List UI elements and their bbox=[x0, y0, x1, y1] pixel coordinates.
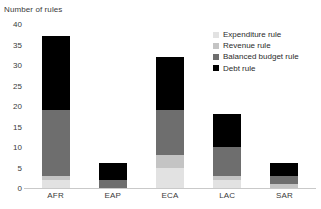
bar-segment[interactable] bbox=[213, 114, 241, 147]
y-axis-tick-label: 10 bbox=[0, 143, 22, 152]
stacked-bar[interactable] bbox=[99, 163, 127, 188]
y-axis-tick-label: 40 bbox=[0, 20, 22, 29]
bar-slot bbox=[84, 24, 141, 188]
bar-slot bbox=[27, 24, 84, 188]
y-axis-tick-label: 35 bbox=[0, 40, 22, 49]
legend-item-label: Revenue rule bbox=[223, 41, 271, 50]
bar-segment[interactable] bbox=[270, 163, 298, 175]
legend-item-label: Balanced budget rule bbox=[223, 52, 299, 61]
y-axis-tick-label: 25 bbox=[0, 81, 22, 90]
y-axis-tick-label: 0 bbox=[0, 184, 22, 193]
y-axis-tick-label: 20 bbox=[0, 102, 22, 111]
bar-segment[interactable] bbox=[99, 163, 127, 179]
bar-segment[interactable] bbox=[156, 110, 184, 155]
legend-item[interactable]: Balanced budget rule bbox=[213, 52, 299, 61]
x-axis-tick-label: EAP bbox=[84, 191, 141, 200]
bar-segment[interactable] bbox=[42, 180, 70, 188]
y-axis-tick-label: 15 bbox=[0, 122, 22, 131]
stacked-bar[interactable] bbox=[156, 57, 184, 188]
stacked-bar[interactable] bbox=[213, 114, 241, 188]
y-axis-title: Number of rules bbox=[4, 5, 62, 14]
x-axis-tick-label: ECA bbox=[141, 191, 198, 200]
bar-segment[interactable] bbox=[270, 176, 298, 184]
bar-segment[interactable] bbox=[156, 168, 184, 189]
legend-swatch-icon bbox=[213, 65, 219, 71]
legend-swatch-icon bbox=[213, 54, 219, 60]
bar-segment[interactable] bbox=[213, 147, 241, 176]
legend-item-label: Debt rule bbox=[223, 64, 255, 73]
legend-item[interactable]: Revenue rule bbox=[213, 41, 299, 50]
x-axis-line bbox=[24, 188, 316, 189]
x-axis-tick-label: LAC bbox=[199, 191, 256, 200]
bar-segment[interactable] bbox=[42, 110, 70, 176]
bar-segment[interactable] bbox=[99, 180, 127, 188]
stacked-bar-chart: Number of rules 0510152025303540 AFREAPE… bbox=[0, 0, 321, 209]
legend-swatch-icon bbox=[213, 32, 219, 38]
legend-item-label: Expenditure rule bbox=[223, 30, 281, 39]
legend-item[interactable]: Expenditure rule bbox=[213, 30, 299, 39]
bar-segment[interactable] bbox=[156, 155, 184, 167]
x-axis-tick-group: AFREAPECALACSAR bbox=[27, 191, 313, 200]
x-axis-tick-label: SAR bbox=[256, 191, 313, 200]
bar-slot bbox=[141, 24, 198, 188]
bar-segment[interactable] bbox=[213, 180, 241, 188]
legend-swatch-icon bbox=[213, 43, 219, 49]
bar-segment[interactable] bbox=[42, 36, 70, 110]
stacked-bar[interactable] bbox=[42, 36, 70, 188]
bar-segment[interactable] bbox=[156, 57, 184, 110]
y-axis-tick-label: 5 bbox=[0, 163, 22, 172]
y-axis-tick-label: 30 bbox=[0, 61, 22, 70]
legend: Expenditure ruleRevenue ruleBalanced bud… bbox=[213, 30, 299, 75]
legend-item[interactable]: Debt rule bbox=[213, 64, 299, 73]
stacked-bar[interactable] bbox=[270, 163, 298, 188]
x-axis-tick-label: AFR bbox=[27, 191, 84, 200]
